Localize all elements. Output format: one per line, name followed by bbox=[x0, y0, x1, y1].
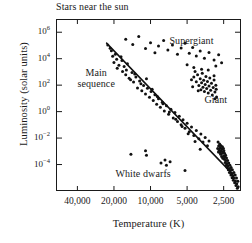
annotation-main-sequence: Main sequence bbox=[56, 67, 136, 90]
data-point bbox=[214, 65, 217, 68]
data-point bbox=[199, 148, 202, 151]
data-point bbox=[217, 141, 220, 144]
y-tick-label: 10−2 bbox=[18, 133, 50, 142]
data-point bbox=[199, 77, 202, 80]
x-axis-title: Temperature (K) bbox=[56, 218, 241, 230]
data-point bbox=[188, 52, 191, 55]
data-point bbox=[215, 88, 218, 91]
data-point bbox=[208, 85, 211, 88]
data-point bbox=[126, 62, 129, 65]
data-point bbox=[156, 95, 159, 98]
data-point bbox=[152, 99, 155, 102]
data-point bbox=[137, 35, 140, 38]
series-cool-dwarf-cluster bbox=[216, 141, 239, 190]
data-point bbox=[212, 86, 215, 89]
data-point bbox=[187, 132, 190, 135]
data-point bbox=[199, 133, 202, 136]
data-point bbox=[138, 79, 141, 82]
data-point bbox=[174, 118, 177, 121]
y-tick-label: 100 bbox=[18, 107, 50, 116]
data-point bbox=[235, 177, 238, 180]
data-point bbox=[190, 78, 193, 81]
data-point bbox=[148, 96, 151, 99]
data-point bbox=[184, 127, 187, 130]
data-point bbox=[200, 68, 203, 71]
data-point bbox=[213, 74, 216, 77]
data-point bbox=[192, 134, 195, 137]
data-point bbox=[232, 171, 235, 174]
data-point bbox=[197, 137, 200, 140]
x-tick-label: 2,500 bbox=[198, 196, 250, 207]
data-point bbox=[112, 61, 115, 64]
data-point bbox=[208, 76, 211, 79]
data-point bbox=[169, 160, 172, 163]
data-point bbox=[168, 110, 171, 113]
data-point bbox=[153, 51, 156, 54]
data-point bbox=[164, 159, 167, 162]
data-point bbox=[206, 80, 209, 83]
data-point bbox=[190, 125, 193, 128]
data-point bbox=[146, 87, 149, 90]
data-point bbox=[144, 47, 147, 50]
data-point bbox=[151, 88, 154, 91]
chart-title: Stars near the sun bbox=[56, 1, 236, 13]
data-point bbox=[169, 108, 172, 111]
data-point bbox=[186, 63, 189, 66]
data-point bbox=[131, 43, 134, 46]
data-point bbox=[161, 102, 164, 105]
data-point bbox=[224, 154, 227, 157]
data-point bbox=[136, 86, 139, 89]
data-point bbox=[195, 80, 198, 83]
data-point bbox=[195, 129, 198, 132]
data-point bbox=[213, 78, 216, 81]
data-point bbox=[207, 68, 210, 71]
data-point bbox=[194, 140, 197, 143]
data-point bbox=[201, 86, 204, 89]
data-point bbox=[106, 43, 109, 46]
data-point bbox=[213, 58, 216, 61]
data-point bbox=[111, 55, 114, 58]
data-point bbox=[210, 82, 213, 85]
data-point bbox=[129, 153, 132, 156]
data-point bbox=[120, 59, 123, 62]
data-point bbox=[197, 84, 200, 87]
data-point bbox=[200, 81, 203, 84]
data-point bbox=[176, 53, 179, 56]
data-point bbox=[208, 51, 211, 54]
data-point bbox=[140, 89, 143, 92]
data-point bbox=[204, 75, 207, 78]
data-point bbox=[199, 50, 202, 53]
data-point bbox=[202, 79, 205, 82]
data-point bbox=[144, 93, 147, 96]
data-point bbox=[155, 103, 158, 106]
data-point bbox=[144, 149, 147, 152]
data-point bbox=[204, 83, 207, 86]
data-point bbox=[192, 75, 195, 78]
data-point bbox=[231, 168, 234, 171]
data-point bbox=[166, 49, 169, 52]
data-point bbox=[120, 55, 123, 58]
data-point bbox=[234, 174, 237, 177]
y-tick-label: 106 bbox=[18, 27, 50, 36]
data-point bbox=[201, 141, 204, 144]
data-point bbox=[217, 150, 220, 153]
data-point bbox=[163, 110, 166, 113]
data-point bbox=[115, 58, 118, 61]
data-point bbox=[197, 89, 200, 92]
annotation-supergiant: Supergiant bbox=[151, 35, 231, 47]
data-point bbox=[186, 122, 189, 125]
data-point bbox=[209, 89, 212, 92]
data-point bbox=[139, 82, 142, 85]
data-point bbox=[165, 164, 168, 167]
data-point bbox=[192, 66, 195, 69]
data-point bbox=[142, 84, 145, 87]
hr-diagram-figure: Stars near the sun Luminosity (solar uni… bbox=[0, 0, 252, 243]
data-point bbox=[196, 73, 199, 76]
data-point bbox=[191, 85, 194, 88]
annotation-giant: Giant bbox=[176, 94, 252, 106]
data-point bbox=[217, 53, 220, 56]
data-point bbox=[213, 91, 216, 94]
data-point bbox=[182, 118, 185, 121]
data-point bbox=[237, 185, 240, 188]
data-point bbox=[206, 144, 209, 147]
